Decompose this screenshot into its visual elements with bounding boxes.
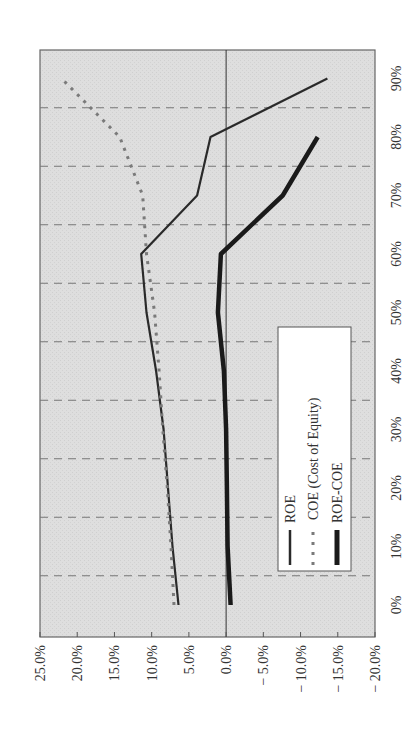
category-label: 10% [389,533,404,559]
value-tick-label: − 15.0% [331,645,346,693]
legend-roe-label: ROE [283,495,298,523]
category-label: 20% [389,475,404,501]
line-chart: 25.0%20.0%15.0%10.0%5.0%0.0%− 5.0%− 10.0… [0,0,418,753]
category-label: 60% [389,241,404,267]
value-tick-label: 20.0% [70,645,85,682]
legend: ROE COE (Cost of Equity) ROE-COE [278,327,351,571]
value-axis: 25.0%20.0%15.0%10.0%5.0%0.0%− 5.0%− 10.0… [33,632,383,693]
category-label: 0% [389,595,404,614]
category-label: 80% [389,124,404,150]
category-label: 40% [389,358,404,384]
value-tick-label: 5.0% [182,645,197,675]
value-tick-label: − 20.0% [368,645,383,693]
category-axis: 0%10%20%30%40%50%60%70%80%90% [389,65,404,614]
value-tick-label: 25.0% [33,645,48,682]
value-tick-label: 0.0% [219,645,234,675]
value-tick-label: 15.0% [107,645,122,682]
category-label: 50% [389,299,404,325]
category-label: 90% [389,65,404,91]
value-tick-label: − 10.0% [294,645,309,693]
value-tick-label: 10.0% [145,645,160,682]
legend-coe-label: COE (Cost of Equity) [306,397,322,520]
value-tick-label: − 5.0% [256,645,271,686]
category-label: 70% [389,182,404,208]
legend-roe-coe-label: ROE-COE [330,462,345,523]
category-label: 30% [389,416,404,442]
